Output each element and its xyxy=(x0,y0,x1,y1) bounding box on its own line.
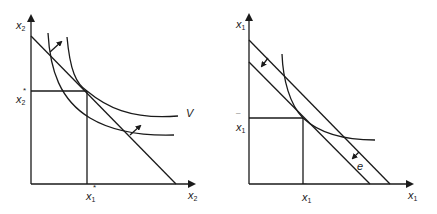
left-budget-line xyxy=(31,36,176,184)
right-shift-label-e: e xyxy=(357,161,363,172)
left-x-axis-label: x2 xyxy=(188,190,197,202)
right-shift-arrow-upper xyxy=(262,58,268,66)
right-indifference-curve xyxy=(282,54,375,140)
left-shift-arrow-upper xyxy=(50,42,61,52)
left-curve-label-v: V xyxy=(186,108,193,119)
left-x-tick-label-x1-star: x1* xyxy=(86,191,95,203)
right-y-axis-label: x1 xyxy=(236,19,245,31)
left-indifference-curve-lower xyxy=(48,33,174,135)
right-diagram xyxy=(249,15,412,184)
left-indifference-curve-v xyxy=(67,37,178,117)
right-upper-budget-line xyxy=(249,40,390,184)
right-y-tick-label-x1-bar: x1¯ xyxy=(236,122,245,134)
left-diagram xyxy=(31,16,194,184)
left-y-axis-label: x2 xyxy=(16,20,25,32)
right-x-tick-label-x1-bar: x1¯ xyxy=(302,192,311,204)
right-x-axis-label: x1 xyxy=(408,190,417,202)
left-y-tick-label-x2-star: x2* xyxy=(16,94,25,106)
right-shift-arrow-lower xyxy=(353,152,359,158)
diagram-canvas xyxy=(0,0,437,214)
